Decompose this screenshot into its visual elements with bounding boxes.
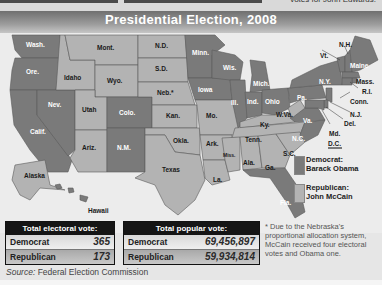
state-hawaii[interactable] (55, 184, 88, 202)
label-neb: Neb.* (157, 89, 174, 96)
electoral-vote-header: Total electoral vote: (6, 222, 114, 235)
legend-republican: Republican: John McCain (306, 183, 353, 201)
electoral-votes: 365 (93, 236, 110, 247)
legend-democrat-candidate: Barack Obama (306, 164, 359, 173)
label-ohio: Ohio (265, 98, 280, 105)
popular-votes: 59,934,814 (205, 251, 255, 262)
label-okla: Okla. (173, 137, 189, 144)
label-texas: Texas (162, 166, 180, 173)
label-wis: Wis. (223, 64, 236, 71)
party-label: Republican (128, 252, 174, 262)
top-snippet-text: votes for John Edwards. (290, 0, 376, 4)
label-mo: Mo. (206, 112, 217, 119)
label-ill: Ill. (231, 99, 238, 106)
label-mass: Mass. (356, 78, 374, 85)
table-row: Democrat 365 (6, 235, 114, 250)
label-md: Md. (329, 130, 340, 137)
party-label: Democrat (128, 237, 167, 247)
label-wyo: Wyo. (107, 77, 123, 85)
label-tenn: Tenn. (245, 136, 262, 143)
label-minn: Minn. (192, 49, 209, 56)
label-ariz: Ariz. (82, 144, 96, 151)
legend-swatch-republican (294, 184, 305, 203)
party-label: Democrat (10, 237, 49, 247)
label-nd: N.D. (155, 42, 168, 49)
label-del: Del. (344, 120, 356, 127)
popular-votes: 69,456,897 (205, 236, 255, 247)
state-del[interactable] (324, 100, 328, 108)
label-maine: Maine (350, 62, 369, 69)
state-conn[interactable] (342, 78, 352, 85)
label-nm: N.M. (117, 144, 131, 151)
label-miss: Miss. (223, 152, 236, 158)
electoral-vote-table: Total electoral vote: Democrat 365 Repub… (5, 221, 115, 265)
label-iowa: Iowa (198, 86, 213, 93)
source-credit: Source: Federal Election Commission (6, 267, 148, 277)
label-nev: Nev. (48, 101, 61, 108)
label-mich: Mich. (253, 80, 270, 87)
label-pa: Pa. (297, 94, 307, 101)
label-hawaii: Hawaii (88, 207, 109, 214)
label-colo: Colo. (119, 109, 135, 116)
label-wva: W.Va. (276, 111, 293, 118)
table-row: Democrat 69,456,897 (124, 235, 259, 250)
label-dc: D.C. (328, 140, 341, 147)
state-ariz[interactable] (70, 130, 107, 172)
label-ore: Ore. (26, 68, 39, 75)
label-utah: Utah (82, 106, 96, 113)
label-ala: Ala. (243, 159, 255, 166)
page-title: Presidential Election, 2008 (0, 12, 382, 27)
label-alaska: Alaska (24, 172, 45, 179)
dc-marker (328, 147, 342, 149)
nebraska-footnote: * Due to the Nebraska's proportional all… (265, 222, 380, 258)
label-ny: N.Y. (319, 78, 331, 85)
label-ind: Ind. (247, 98, 259, 105)
state-ind[interactable] (245, 92, 262, 118)
label-nh: N.H. (339, 41, 352, 48)
legend-republican-party: Republican: (306, 183, 353, 192)
state-mich[interactable] (250, 60, 270, 92)
legend-democrat-party: Democrat: (306, 155, 359, 164)
source-prefix: Source: (6, 267, 35, 277)
legend-swatch-democrat (294, 156, 305, 175)
top-rule-left (0, 0, 118, 3)
label-wash: Wash. (26, 41, 45, 48)
label-calif: Calif. (30, 128, 46, 135)
label-sd: S.D. (155, 65, 168, 72)
popular-vote-header: Total popular vote: (124, 222, 259, 235)
top-rule-middle (124, 0, 262, 3)
label-conn: Conn. (350, 98, 369, 105)
label-mont: Mont. (97, 44, 115, 51)
label-va: Va. (303, 117, 313, 124)
label-fla: Fla. (280, 199, 291, 206)
label-kan: Kan. (166, 112, 180, 119)
legend: Democrat: Barack Obama Republican: John … (292, 154, 382, 208)
label-nc: N.C. (292, 135, 305, 142)
label-ky: Ky. (260, 121, 270, 129)
party-label: Republican (10, 252, 56, 262)
label-idaho: Idaho (64, 74, 81, 81)
label-la: La. (213, 176, 223, 183)
electoral-votes: 173 (93, 251, 110, 262)
bottom-strip (0, 280, 382, 285)
table-row: Republican 173 (6, 250, 114, 264)
label-ri: R.I. (362, 88, 372, 95)
source-text: Federal Election Commission (35, 267, 148, 277)
label-ga: Ga. (265, 164, 276, 171)
label-nj: N.J. (350, 111, 362, 118)
state-ny[interactable] (290, 60, 342, 88)
popular-vote-table: Total popular vote: Democrat 69,456,897 … (123, 221, 260, 265)
legend-democrat: Democrat: Barack Obama (306, 155, 359, 173)
label-ark: Ark. (206, 140, 219, 147)
legend-republican-candidate: John McCain (306, 192, 353, 201)
table-row: Republican 59,934,814 (124, 250, 259, 264)
label-vt: Vt. (320, 52, 329, 59)
